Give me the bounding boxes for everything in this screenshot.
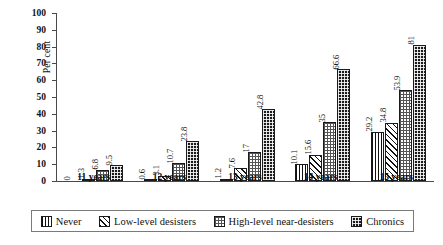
x-axis-label: 11 years [77, 172, 110, 182]
legend-item[interactable]: Chronics [351, 216, 404, 227]
y-axis-tick: 30 [52, 131, 56, 132]
bar-value-label: 23.8 [180, 126, 189, 141]
legend-item[interactable]: High-level near-desisters [214, 216, 334, 227]
bar: 42.8 [262, 109, 275, 181]
y-axis-tick: 100 [52, 13, 56, 14]
legend-label: Never [56, 216, 82, 227]
legend-swatch-icon [99, 216, 110, 227]
bar-value-label: 66.6 [331, 54, 340, 69]
y-axis-tick: 70 [52, 63, 56, 64]
x-axis-label: 14 years [304, 172, 338, 182]
legend-item[interactable]: Never [41, 216, 82, 227]
bar-value-label: 0.6 [138, 168, 147, 179]
y-axis-tick-label: 10 [37, 159, 47, 169]
bar-value-label: 34.8 [379, 108, 388, 123]
y-axis-tick: 10 [52, 164, 56, 165]
legend-label: Chronics [366, 216, 404, 227]
bar-group: 0.63.110.723.8 [144, 13, 199, 181]
bar-value-label: 17 [242, 144, 251, 153]
y-axis-tick: 40 [52, 114, 56, 115]
bar-value-label: 10.7 [166, 148, 175, 163]
bar-group: 10.115.63566.6 [295, 13, 350, 181]
y-axis-tick: 90 [52, 30, 56, 31]
y-axis-tick-label: 90 [37, 25, 47, 35]
bar-group: 29.234.853.981 [371, 13, 426, 181]
bar-value-label: 9.5 [104, 154, 113, 165]
legend-swatch-icon [351, 216, 362, 227]
bar: 66.6 [337, 69, 350, 181]
y-axis-tick-label: 100 [32, 8, 46, 18]
y-axis-tick-label: 70 [37, 58, 47, 68]
bar-value-label: 35 [317, 114, 326, 123]
bar-value-label: 1.2 [214, 168, 223, 179]
y-axis-tick-label: 40 [37, 109, 47, 119]
y-axis-tick-label: 80 [37, 42, 47, 52]
bar: 81 [413, 45, 426, 181]
bar-group: 1.27.61742.8 [220, 13, 275, 181]
plot-area: 0102030405060708090100 01.36.89.50.63.11… [56, 13, 434, 181]
bar-value-label: 29.2 [365, 117, 374, 132]
bar: 53.9 [399, 90, 412, 181]
x-axis-label: 15 years [379, 172, 413, 182]
bar-group: 01.36.89.5 [68, 13, 123, 181]
bar-value-label: 42.8 [256, 94, 265, 109]
bar-value-label: 7.6 [228, 158, 237, 169]
legend-item[interactable]: Low-level desisters [99, 216, 196, 227]
bar-value-label: 0 [62, 176, 71, 180]
x-axis-label: 13 years [228, 172, 262, 182]
bar-value-label: 6.8 [90, 159, 99, 170]
y-axis-tick: 60 [52, 80, 56, 81]
bar-value-label: 15.6 [303, 140, 312, 155]
bar: 23.8 [186, 141, 199, 181]
bar: 9.5 [110, 165, 123, 181]
y-axis-tick-label: 0 [41, 176, 46, 186]
y-axis-tick: 20 [52, 147, 56, 148]
y-axis-line [56, 13, 57, 181]
y-axis-tick-label: 20 [37, 142, 47, 152]
legend-label: Low-level desisters [114, 216, 196, 227]
y-axis-tick-label: 50 [37, 92, 47, 102]
chart-legend: NeverLow-level desistersHigh-level near-… [31, 210, 414, 232]
bar-value-label: 53.9 [393, 76, 402, 91]
legend-swatch-icon [41, 216, 52, 227]
y-axis-tick: 50 [52, 97, 56, 98]
x-axis-label: 12 years [153, 172, 187, 182]
y-axis-tick-label: 60 [37, 75, 47, 85]
bar-value-label: 81 [407, 36, 416, 45]
bar-value-label: 10.1 [289, 149, 298, 164]
legend-swatch-icon [214, 216, 225, 227]
y-axis-tick: 0 [52, 181, 56, 182]
legend-label: High-level near-desisters [229, 216, 334, 227]
y-axis-tick: 80 [52, 47, 56, 48]
y-axis-tick-label: 30 [37, 126, 47, 136]
bar-chart: Per cent 0102030405060708090100 01.36.89… [0, 0, 443, 245]
